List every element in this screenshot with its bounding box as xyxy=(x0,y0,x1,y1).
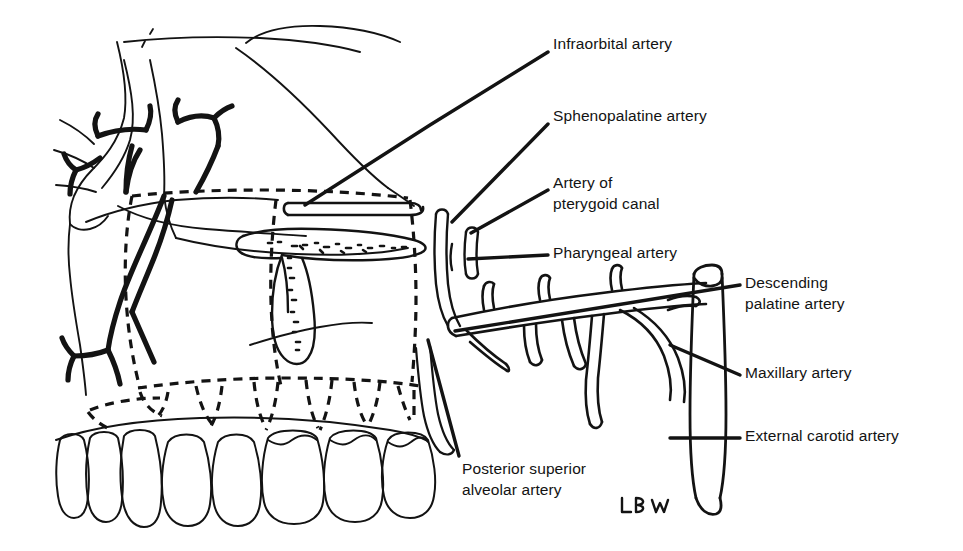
label-sphenopalatine-artery: Sphenopalatine artery xyxy=(553,105,707,126)
external-carotid-artery xyxy=(690,265,726,514)
label-descending-palatine-artery: Descending palatine artery xyxy=(745,272,845,314)
maxillary-sinus-outline xyxy=(236,229,425,364)
label-line: Pharyngeal artery xyxy=(553,242,677,263)
label-artery-of-pterygoid-canal: Artery of pterygoid canal xyxy=(553,172,660,214)
label-line: Maxillary artery xyxy=(745,362,852,383)
label-line: Sphenopalatine artery xyxy=(553,105,707,126)
teeth xyxy=(56,418,435,528)
label-pharyngeal-artery: Pharyngeal artery xyxy=(553,242,677,263)
skull-outline xyxy=(69,26,415,395)
label-external-carotid-artery: External carotid artery xyxy=(745,425,899,446)
anatomy-figure: Infraorbital artery Sphenopalatine arter… xyxy=(0,0,963,551)
label-line: pterygoid canal xyxy=(553,193,660,214)
maxillary-artery xyxy=(448,265,706,428)
label-infraorbital-artery: Infraorbital artery xyxy=(553,33,672,54)
label-line: Infraorbital artery xyxy=(553,33,672,54)
dashed-outlines xyxy=(88,190,420,430)
sphenopalatine-artery-tube xyxy=(435,210,479,327)
label-maxillary-artery: Maxillary artery xyxy=(745,362,852,383)
label-posterior-superior-alveolar-artery: Posterior superior alveolar artery xyxy=(462,458,586,500)
signature-lbw xyxy=(622,498,668,512)
label-line: Posterior superior xyxy=(462,458,586,479)
label-line: Artery of xyxy=(553,172,660,193)
nasal-arteries xyxy=(62,100,232,384)
label-line: External carotid artery xyxy=(745,425,899,446)
label-line: palatine artery xyxy=(745,293,845,314)
label-line: alveolar artery xyxy=(462,479,586,500)
label-line: Descending xyxy=(745,272,845,293)
nasal-conchae xyxy=(54,120,96,192)
